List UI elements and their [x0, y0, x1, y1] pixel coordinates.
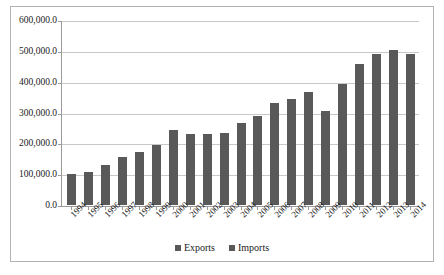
ytick-mark-0	[58, 206, 62, 207]
bar-exports-2011[interactable]	[355, 64, 364, 205]
xlabel-slot: 1997	[113, 211, 130, 245]
bar-slot	[182, 21, 199, 205]
xlabel-slot: 2011	[352, 211, 369, 245]
xlabel-slot: 2002	[198, 211, 215, 245]
ytick-mark-300000	[58, 114, 62, 115]
bar-slot	[216, 21, 233, 205]
xlabel-slot: 1994	[62, 211, 79, 245]
ytick-mark-400000	[58, 83, 62, 84]
bar-slot	[148, 21, 165, 205]
chart-legend: Exports Imports	[11, 243, 433, 253]
bar-exports-2013[interactable]	[389, 50, 398, 205]
xlabel-slot: 2006	[267, 211, 284, 245]
bar-slot	[233, 21, 250, 205]
bar-slot	[402, 21, 419, 205]
ytick-label-600000: 600,000.0	[19, 16, 57, 26]
xlabel-slot: 1995	[79, 211, 96, 245]
xlabel-slot: 2014	[403, 211, 420, 245]
bar-exports-1998[interactable]	[135, 152, 144, 205]
bar-exports-2004[interactable]	[237, 123, 246, 205]
legend-item-exports[interactable]: Exports	[175, 243, 215, 253]
bar-slot	[351, 21, 368, 205]
bar-exports-2009[interactable]	[321, 111, 330, 205]
bar-exports-1999[interactable]	[152, 145, 161, 205]
bar-slot	[266, 21, 283, 205]
bar-slot	[131, 21, 148, 205]
ytick-mark-200000	[58, 144, 62, 145]
bar-slot	[80, 21, 97, 205]
bar-exports-2008[interactable]	[304, 92, 313, 205]
xlabel-slot: 2001	[181, 211, 198, 245]
bar-slot	[317, 21, 334, 205]
ytick-label-100000: 100,000.0	[19, 170, 57, 180]
bar-exports-2001[interactable]	[186, 134, 195, 205]
bar-exports-1994[interactable]	[67, 174, 76, 205]
xlabel-slot: 1996	[96, 211, 113, 245]
bar-group	[63, 21, 419, 205]
xlabel-slot: 2004	[232, 211, 249, 245]
legend-label-imports: Imports	[238, 243, 269, 253]
bar-exports-2002[interactable]	[203, 134, 212, 205]
bar-slot	[97, 21, 114, 205]
xlabel-slot: 2007	[284, 211, 301, 245]
xlabel-slot: 2008	[301, 211, 318, 245]
legend-swatch-icon-exports	[175, 245, 181, 251]
xlabel-slot: 2012	[369, 211, 386, 245]
bar-slot	[249, 21, 266, 205]
bar-exports-2010[interactable]	[338, 84, 347, 205]
ytick-label-300000: 300,000.0	[19, 109, 57, 119]
ytick-label-200000: 200,000.0	[19, 140, 57, 150]
xlabel-slot: 1999	[147, 211, 164, 245]
bar-slot	[334, 21, 351, 205]
ytick-label-500000: 500,000.0	[19, 47, 57, 57]
bar-exports-2014[interactable]	[406, 54, 415, 205]
bar-slot	[300, 21, 317, 205]
xlabel-slot: 2013	[386, 211, 403, 245]
bar-exports-2006[interactable]	[270, 103, 279, 205]
xlabel-slot: 2003	[215, 211, 232, 245]
xlabel-slot: 2005	[250, 211, 267, 245]
ytick-label-0: 0.0	[45, 201, 57, 211]
xlabel-slot: 2010	[335, 211, 352, 245]
legend-label-exports: Exports	[184, 243, 215, 253]
bar-slot	[199, 21, 216, 205]
bar-exports-1997[interactable]	[118, 157, 127, 205]
bar-exports-2003[interactable]	[220, 133, 229, 205]
plot-area: 600,000.0 500,000.0 400,000.0 300,000.0 …	[61, 21, 419, 207]
bar-slot	[114, 21, 131, 205]
bar-exports-2005[interactable]	[253, 116, 262, 205]
xlabel-slot: 2009	[318, 211, 335, 245]
bar-exports-1996[interactable]	[101, 165, 110, 205]
bar-slot	[368, 21, 385, 205]
ytick-mark-100000	[58, 175, 62, 176]
bar-slot	[385, 21, 402, 205]
bar-exports-2012[interactable]	[372, 54, 381, 205]
bar-slot	[165, 21, 182, 205]
ytick-mark-500000	[58, 52, 62, 53]
bar-exports-2000[interactable]	[169, 130, 178, 205]
xlabel-slot: 2000	[164, 211, 181, 245]
ytick-mark-600000	[58, 21, 62, 22]
legend-item-imports[interactable]: Imports	[229, 243, 269, 253]
xlabel-slot: 1998	[130, 211, 147, 245]
x-axis-labels: 1994199519961997199819992000200120022003…	[62, 211, 420, 245]
plot-wrapper: 600,000.0 500,000.0 400,000.0 300,000.0 …	[61, 21, 419, 207]
bar-exports-1995[interactable]	[84, 172, 93, 205]
ytick-label-400000: 400,000.0	[19, 78, 57, 88]
legend-swatch-icon-imports	[229, 245, 235, 251]
bar-exports-2007[interactable]	[287, 99, 296, 205]
bar-slot	[63, 21, 80, 205]
chart-frame: 600,000.0 500,000.0 400,000.0 300,000.0 …	[10, 6, 434, 262]
bar-slot	[283, 21, 300, 205]
